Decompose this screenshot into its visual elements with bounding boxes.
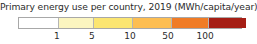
colorbar-swatch <box>58 18 94 28</box>
legend-title: Primary energy use per country, 2019 (MW… <box>0 1 257 13</box>
colorbar-tick-label: 100 <box>196 30 213 43</box>
colorbar-swatch <box>132 18 171 28</box>
colorbar-tick-label: 5 <box>89 30 95 43</box>
colorbar-tick-label: 50 <box>162 30 173 43</box>
color-bar <box>18 17 242 29</box>
colorbar-tick-label: 10 <box>124 30 135 43</box>
colorbar-swatch <box>171 18 209 28</box>
colorbar-swatch <box>93 18 132 28</box>
colorbar-tick-label: 1 <box>54 30 60 43</box>
colorbar-tick-labels: 151050100 <box>18 30 242 43</box>
colorbar-swatch <box>19 18 58 28</box>
colorbar-swatch <box>208 18 246 28</box>
map-legend: Primary energy use per country, 2019 (MW… <box>0 0 257 44</box>
